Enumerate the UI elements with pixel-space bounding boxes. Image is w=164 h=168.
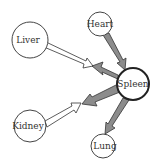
edge-spleen-kidney [82,84,120,106]
node-heart[interactable]: Heart [87,12,114,36]
node-kidney[interactable]: Kidney [12,110,46,142]
node-label-kidney: Kidney [12,121,44,131]
node-liver[interactable]: Liver [12,22,48,58]
node-label-heart: Heart [87,19,114,29]
node-lung[interactable]: Lung [91,134,117,158]
node-label-liver: Liver [16,35,40,45]
organ-network-diagram: Heart Liver Spleen Kidney Lung [0,0,164,168]
edge-spleen-liver [92,62,120,80]
node-label-lung: Lung [93,141,117,151]
edge-liver-spleen [44,42,93,68]
node-label-spleen: Spleen [117,79,148,89]
node-spleen[interactable]: Spleen [117,68,149,100]
edge-heart-spleen [103,33,126,70]
edge-spleen-lung [105,98,129,134]
edge-kidney-spleen [45,103,81,127]
